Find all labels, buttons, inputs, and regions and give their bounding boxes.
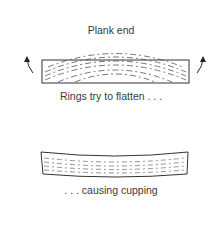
flat-plank — [42, 54, 189, 84]
caption-bottom: . . . causing cupping — [0, 184, 222, 196]
caption-top: Rings try to flatten . . . — [0, 90, 222, 102]
cupped-plank — [41, 152, 188, 177]
curved-arrow-left-icon — [24, 56, 33, 73]
curved-arrow-right-icon — [197, 56, 206, 73]
